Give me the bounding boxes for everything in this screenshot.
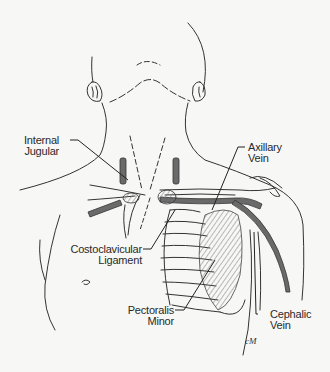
label-cephalic-vein: Cephalic Vein [270, 309, 311, 331]
left-ear [87, 82, 102, 102]
left-subclavian [88, 200, 122, 217]
nipple [82, 280, 90, 285]
costoclavicular-ligament-shape [158, 190, 176, 204]
left-internal-jugular [120, 158, 126, 184]
label-axillary-vein: Axillary Vein [248, 142, 282, 164]
pectoralis-minor-muscle [199, 210, 242, 310]
leader-internal-jugular [70, 140, 128, 180]
label-pectoralis-minor: Pectoralis Minor [118, 305, 174, 327]
right-internal-jugular [173, 158, 179, 184]
leader-cephalic-vein [254, 232, 258, 314]
head-outline [92, 23, 206, 102]
label-internal-jugular: Internal Jugular [24, 135, 59, 157]
label-costoclavicular-ligament: Costoclavicular Ligament [55, 244, 142, 266]
artist-signature: cM [245, 336, 257, 346]
anatomy-diagram: cM Internal Jugular Axillary Vein Costoc… [0, 0, 330, 372]
leader-costoclavicular [143, 210, 175, 249]
